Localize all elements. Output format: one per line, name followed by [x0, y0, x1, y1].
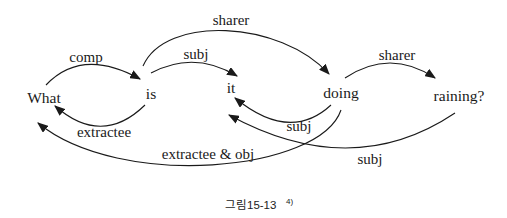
arc-sharer-is-to-doing	[143, 30, 329, 74]
dependency-diagram-figure: What is it doing raining? comp subj shar…	[0, 0, 507, 218]
arc-subj-is-to-it	[151, 62, 237, 76]
label-comp: comp	[69, 49, 102, 65]
arc-subj-doing-to-it	[235, 98, 331, 122]
word-raining: raining?	[434, 87, 485, 104]
word-what: What	[27, 89, 61, 106]
word-doing: doing	[323, 84, 359, 101]
label-subj-bottom: subj	[357, 151, 382, 167]
label-extractee: extractee	[77, 124, 131, 140]
label-sharer-top: sharer	[213, 12, 250, 28]
diagram-svg: What is it doing raining? comp subj shar…	[0, 0, 507, 218]
label-sharer-right: sharer	[379, 47, 416, 63]
figure-caption: 그림15-13	[225, 199, 276, 211]
word-is: is	[146, 85, 156, 102]
label-subj-top: subj	[183, 46, 208, 62]
arc-comp-what-to-is	[46, 64, 140, 85]
label-extractee-obj: extractee & obj	[162, 146, 254, 162]
word-it: it	[227, 79, 236, 96]
arc-subj-raining-to-it	[229, 113, 455, 148]
arc-sharer-doing-to-raining	[345, 63, 435, 78]
figure-caption-footnote-mark: 4)	[286, 197, 293, 206]
label-subj-mid: subj	[286, 118, 311, 134]
